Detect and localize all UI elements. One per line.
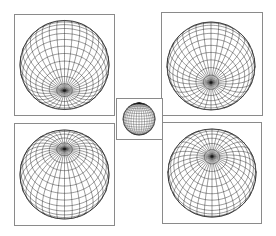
sphere-panel-top-right: Sphere, pole facing down [161, 12, 263, 116]
wireframe-sphere-icon [162, 13, 262, 115]
sphere-panel-bottom-right: Sphere, pole facing up [162, 122, 262, 224]
wireframe-sphere-icon [15, 15, 114, 115]
wireframe-sphere-icon [15, 124, 114, 225]
sphere-panel-top-left: Sphere, pole facing down-front [14, 14, 115, 116]
wireframe-sphere-icon [163, 123, 261, 223]
sphere-panel-bottom-left: Sphere, pole facing up-front [14, 123, 115, 226]
wireframe-sphere-icon [117, 99, 162, 139]
sphere-panel-center: Small sphere, equatorial view [116, 98, 163, 140]
